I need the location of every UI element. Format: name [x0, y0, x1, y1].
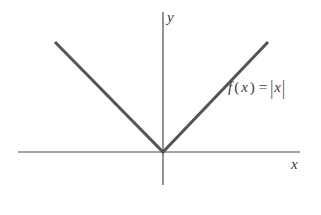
absolute-bar-right: | [282, 77, 285, 99]
function-open-paren: ( [234, 79, 239, 95]
function-variable: x [241, 79, 248, 95]
function-equation-label: f(x)=|x| [228, 80, 286, 95]
absolute-value-curve [55, 42, 268, 152]
function-name: f [228, 79, 232, 95]
equals-sign: = [259, 79, 267, 95]
function-close-paren: ) [250, 79, 255, 95]
plot-canvas [0, 0, 321, 215]
absolute-bar-left: | [270, 77, 273, 99]
absolute-argument: x [274, 79, 281, 95]
absolute-value-function-figure: y x f(x)=|x| [0, 0, 321, 215]
x-axis-label: x [291, 157, 298, 172]
y-axis-label: y [167, 10, 174, 25]
